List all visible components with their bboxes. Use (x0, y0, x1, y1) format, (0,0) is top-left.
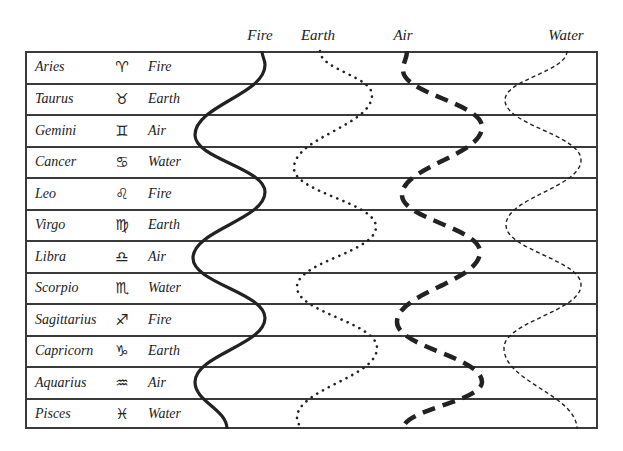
element-curves (0, 0, 623, 451)
air-curve (397, 51, 482, 429)
zodiac-elements-diagram: FireEarthAirWater Aries ♈︎ Fire Taurus ♉… (0, 0, 623, 451)
fire-curve (193, 51, 265, 429)
water-curve (504, 51, 581, 429)
earth-curve (294, 51, 377, 429)
